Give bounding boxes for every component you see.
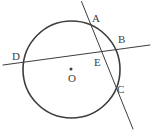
geometry-canvas — [0, 0, 152, 131]
geometry-figure: A B E D O C — [0, 0, 152, 131]
label-A: A — [92, 13, 100, 24]
secant-line-AC — [82, 2, 134, 130]
label-O: O — [68, 73, 76, 84]
center-point-dot — [70, 68, 73, 71]
label-E: E — [94, 57, 101, 68]
label-C: C — [117, 84, 124, 95]
label-B: B — [118, 34, 125, 45]
label-D: D — [12, 51, 20, 62]
